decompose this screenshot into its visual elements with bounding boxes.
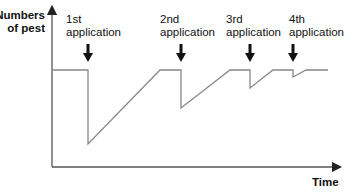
annotation-3rd-application: 3rd application [226,13,281,39]
y-axis-label: Numbers of pest [0,9,45,35]
y-axis-label-line2: of pest [0,22,45,35]
y-axis-label-line1: Numbers [0,9,45,22]
application-arrow-4 [288,44,298,62]
annotation-2nd-application: 2nd application [160,13,215,39]
annotation-4th-application: 4th application [289,13,344,39]
application-arrow-3 [245,44,255,62]
application-arrow-1 [83,44,93,62]
annotation-text: application [226,26,281,39]
pest-population-line [52,70,328,144]
annotation-text: application [289,26,344,39]
application-arrow-2 [176,44,186,62]
annotation-1st-application: 1st application [66,13,121,39]
annotation-text: application [66,26,121,39]
annotation-ordinal: 1st [66,13,121,26]
annotation-ordinal: 4th [289,13,344,26]
annotation-ordinal: 3rd [226,13,281,26]
annotation-ordinal: 2nd [160,13,215,26]
annotation-text: application [160,26,215,39]
x-axis-label: Time [312,176,339,188]
